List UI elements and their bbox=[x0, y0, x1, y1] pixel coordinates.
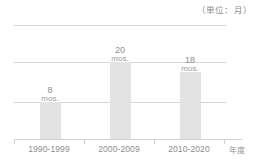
bar-1990-1999 bbox=[40, 102, 61, 139]
gridline-top bbox=[14, 25, 226, 26]
value-unit: mos. bbox=[90, 55, 150, 63]
plot-area bbox=[14, 25, 226, 139]
unit-note: （単位：月） bbox=[197, 3, 252, 15]
category-label-2000-2009: 2000-2009 bbox=[83, 144, 155, 154]
x-axis-line bbox=[14, 139, 242, 140]
value-unit: mos. bbox=[160, 65, 220, 73]
bar-2010-2020 bbox=[180, 72, 201, 139]
value-label-2000-2009: 20 mos. bbox=[90, 46, 150, 64]
bar-chart: （単位：月） 8 mos. 20 mos. 18 mos. 1990-1999 … bbox=[0, 0, 262, 165]
bar-2000-2009 bbox=[110, 62, 131, 139]
value-label-1990-1999: 8 mos. bbox=[20, 86, 80, 104]
x-axis-title: 年度 bbox=[229, 144, 245, 155]
value-label-2010-2020: 18 mos. bbox=[160, 56, 220, 74]
category-label-2010-2020: 2010-2020 bbox=[153, 144, 225, 154]
category-label-1990-1999: 1990-1999 bbox=[13, 144, 85, 154]
value-unit: mos. bbox=[20, 95, 80, 103]
